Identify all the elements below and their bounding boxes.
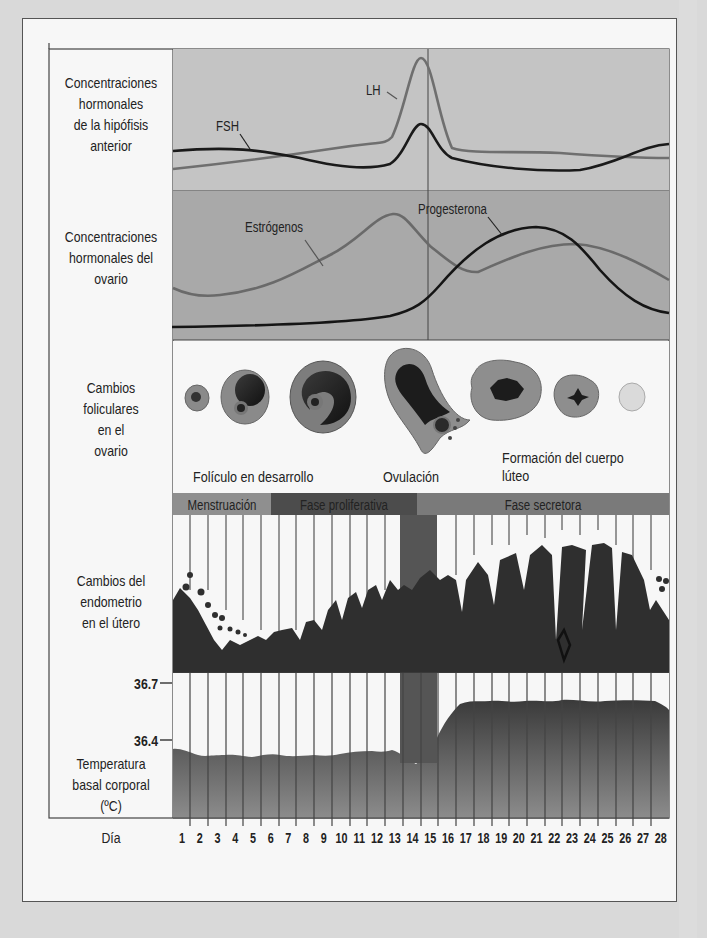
corpus-luteum-small-icon bbox=[554, 375, 599, 417]
day-label: 5 bbox=[250, 829, 256, 846]
day-label: 25 bbox=[602, 829, 614, 846]
ovary-hormone-panel: Estrógenos Progesterona bbox=[172, 191, 669, 340]
svg-text:Menstruación: Menstruación bbox=[188, 497, 257, 513]
day-label: 3 bbox=[214, 829, 220, 846]
day-label: 27 bbox=[637, 829, 649, 846]
corpus-albicans-icon bbox=[619, 383, 645, 411]
svg-text:Fase proliferativa: Fase proliferativa bbox=[300, 497, 389, 513]
endometrium-panel bbox=[173, 515, 669, 673]
day-label: 20 bbox=[513, 829, 525, 846]
temp-tick-high: 36.7 bbox=[134, 676, 158, 692]
day-labels: 1234567891011121314151617181920212223242… bbox=[179, 829, 667, 846]
day-label: 1 bbox=[179, 829, 185, 846]
corpus-luteum-label-1: Formación del cuerpo bbox=[502, 449, 624, 466]
temperature-panel: 36.7 36.4 bbox=[134, 673, 669, 826]
follicle-tertiary-icon bbox=[290, 361, 356, 433]
corpus-luteum-label-2: lúteo bbox=[502, 467, 530, 484]
day-label: 26 bbox=[619, 829, 631, 846]
day-label: 17 bbox=[460, 829, 472, 846]
follicle-secondary-icon bbox=[221, 370, 269, 424]
row-label-ovary-hormones: Concentraciones hormonales del ovario bbox=[60, 226, 162, 289]
day-label: 9 bbox=[321, 829, 327, 846]
day-label: 10 bbox=[336, 829, 348, 846]
phase-bar: Menstruación Fase proliferativa Fase sec… bbox=[173, 493, 669, 515]
temp-tick-low: 36.4 bbox=[134, 733, 158, 749]
lh-label: LH bbox=[366, 82, 381, 98]
day-label: 24 bbox=[584, 829, 597, 846]
progesterone-label: Progesterona bbox=[418, 201, 488, 217]
corpus-luteum-large-icon bbox=[471, 360, 541, 420]
follicle-panel: Folículo en desarrollo Ovulación Formaci… bbox=[173, 341, 669, 493]
day-label: 13 bbox=[389, 829, 401, 846]
day-label: 28 bbox=[655, 829, 667, 846]
day-label: 7 bbox=[285, 829, 291, 846]
day-label: 18 bbox=[477, 829, 489, 846]
day-label: 23 bbox=[566, 829, 578, 846]
x-axis-label: Día bbox=[101, 830, 120, 846]
day-label: 22 bbox=[548, 829, 560, 846]
row-label-endometrium: Cambios del endometrio en el útero bbox=[60, 570, 162, 633]
day-label: 19 bbox=[495, 829, 507, 846]
row-label-follicular: Cambios foliculares en el ovario bbox=[60, 377, 162, 461]
day-label: 16 bbox=[442, 829, 454, 846]
day-label: 8 bbox=[303, 829, 309, 846]
day-label: 4 bbox=[232, 829, 239, 846]
follicle-primary-icon bbox=[185, 385, 209, 411]
day-label: 2 bbox=[197, 829, 203, 846]
day-label: 15 bbox=[424, 829, 436, 846]
estrogen-label: Estrógenos bbox=[245, 219, 303, 235]
day-label: 14 bbox=[406, 829, 419, 846]
row-label-temperature: Temperatura basal corporal (ºC) bbox=[60, 753, 162, 816]
fsh-label: FSH bbox=[216, 118, 239, 134]
ovulation-label: Ovulación bbox=[383, 468, 439, 485]
day-label: 11 bbox=[354, 829, 365, 846]
pituitary-panel: LH FSH bbox=[173, 49, 669, 191]
developing-follicle-label: Folículo en desarrollo bbox=[193, 468, 314, 485]
row-label-pituitary: Concentraciones hormonales de la hipófis… bbox=[60, 72, 162, 156]
svg-text:Fase secretora: Fase secretora bbox=[505, 497, 582, 513]
day-label: 6 bbox=[268, 829, 274, 846]
day-label: 12 bbox=[371, 829, 383, 846]
day-label: 21 bbox=[531, 829, 543, 846]
